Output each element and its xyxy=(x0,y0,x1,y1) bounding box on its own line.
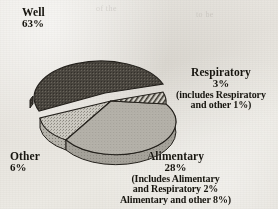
alimentary-label: Alimentary 28% (Includes Alimentary and … xyxy=(120,150,231,206)
other-label: Other 6% xyxy=(10,150,40,174)
alimentary-label-note3: Alimentary and other 8%) xyxy=(120,195,231,206)
well-slice-side xyxy=(30,96,33,108)
other-label-percent: 6% xyxy=(10,162,40,174)
respiratory-label-note2: and other 1%) xyxy=(176,100,266,111)
well-label: Well 63% xyxy=(22,6,45,30)
well-label-percent: 63% xyxy=(22,18,45,30)
respiratory-label: Respiratory 3% (includes Respiratory and… xyxy=(176,66,266,111)
